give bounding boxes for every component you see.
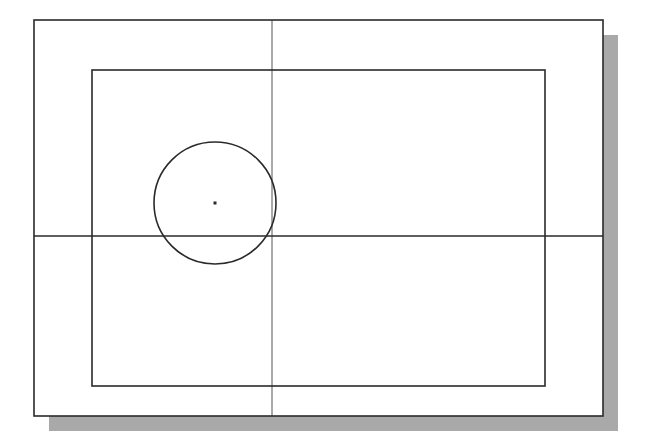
cad-drawing-canvas (0, 0, 645, 446)
drawing-sheet (34, 20, 603, 416)
sheet-shadow-bottom (49, 416, 618, 431)
sheet-shadow-right (603, 35, 618, 431)
circle-center-point (214, 202, 217, 205)
